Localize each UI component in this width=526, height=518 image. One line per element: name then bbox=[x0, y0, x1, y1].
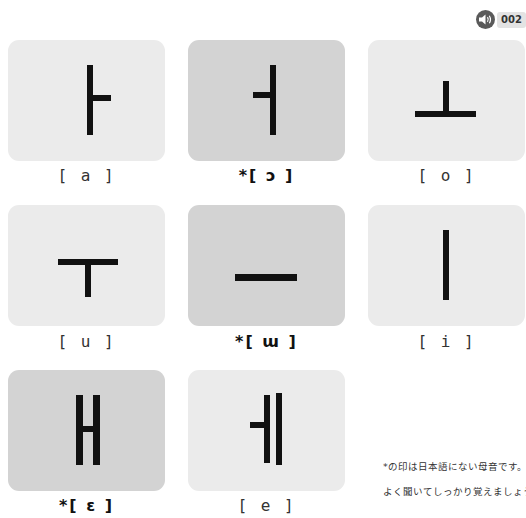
vowel-card-i bbox=[368, 205, 525, 326]
speaker-icon[interactable] bbox=[476, 10, 495, 29]
vowel-i-glyph bbox=[368, 205, 525, 326]
footnote-line-2: よく聞いてしっかり覚えましょう。 bbox=[383, 479, 526, 504]
vowel-card-e-open bbox=[8, 370, 165, 491]
audio-track[interactable]: 002 bbox=[476, 10, 526, 29]
vowel-a-glyph bbox=[8, 40, 165, 161]
vowel-card-o bbox=[368, 40, 525, 161]
vowel-label-i: [ i ] bbox=[368, 332, 525, 351]
vowel-label-w: *[ ɯ ] bbox=[188, 332, 345, 351]
vowel-o-open-glyph bbox=[188, 40, 345, 161]
vowel-label-a: [ a ] bbox=[8, 166, 165, 185]
vowel-label-o-open: *[ ɔ ] bbox=[188, 166, 345, 185]
vowel-label-o: [ o ] bbox=[368, 166, 525, 185]
vowel-label-e: [ e ] bbox=[188, 496, 345, 515]
vowel-label-u: [ u ] bbox=[8, 332, 165, 351]
vowel-card-e bbox=[188, 370, 345, 491]
vowel-e-glyph bbox=[188, 370, 345, 491]
footnote-line-1: *の印は日本語にない母音です。 bbox=[383, 454, 526, 479]
vowel-u-glyph bbox=[8, 205, 165, 326]
vowel-label-e-open: *[ ɛ ] bbox=[8, 496, 165, 515]
vowel-card-o-open bbox=[188, 40, 345, 161]
vowel-e-open-glyph bbox=[8, 370, 165, 491]
footnote: *の印は日本語にない母音です。 よく聞いてしっかり覚えましょう。 bbox=[383, 454, 526, 504]
vowel-card-w bbox=[188, 205, 345, 326]
vowel-o-glyph bbox=[368, 40, 525, 161]
track-number: 002 bbox=[497, 12, 526, 28]
vowel-w-glyph bbox=[188, 205, 345, 326]
vowel-card-u bbox=[8, 205, 165, 326]
vowel-card-a bbox=[8, 40, 165, 161]
